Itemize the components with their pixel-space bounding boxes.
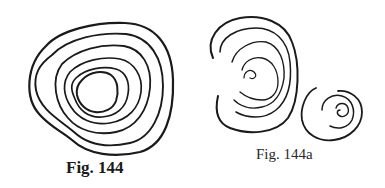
- ring-6: [77, 72, 118, 112]
- fig-144-caption: Fig. 144: [66, 158, 124, 178]
- ring-1: [29, 23, 173, 155]
- arc-4: [240, 58, 278, 100]
- fig-144a-open-arcs: [211, 17, 298, 132]
- coil-inner: [336, 104, 348, 117]
- figure-drawings: [0, 0, 385, 188]
- fig-144-rings: [29, 23, 173, 155]
- fig-144a-small-coil: [302, 88, 362, 140]
- ring-5: [72, 68, 129, 117]
- arc-3: [232, 42, 284, 108]
- arc-inner: [244, 70, 256, 78]
- fig-144a-caption: Fig. 144a: [256, 146, 313, 163]
